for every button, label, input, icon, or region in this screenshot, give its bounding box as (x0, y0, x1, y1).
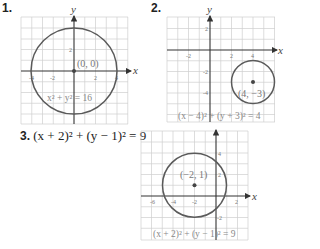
graph-3-tick: -2 (192, 199, 197, 205)
graph-2-grid (167, 17, 275, 122)
graph-3-tick: 2 (218, 172, 221, 178)
graph-3-center-label: (−2, 1) (180, 169, 207, 181)
graph-2-y-label: y (206, 3, 212, 15)
graph-1-center-point (72, 69, 76, 73)
graph-3-tick: -6 (150, 199, 155, 205)
graph-2-center-label: (4, −3) (238, 88, 265, 100)
graph-1-y-label: y (70, 3, 76, 15)
graph-2-x-label: x (277, 44, 283, 56)
graph-2-tick: 2 (205, 26, 208, 32)
graph-3: x -6 -4 -2 2 4 2 -2 (−2, 1) (x + 2)² + (… (141, 130, 257, 240)
graph-3-equation-label: (x + 2)² + (y − 1)² = 9 (153, 229, 236, 240)
graph-1: x y -4 -2 2 4 2 (0, 0) x² + y² = 16 (21, 3, 138, 124)
graph-2: x y -2 2 4 2 -2 -4 (4, −3) (x − 4)² + (y… (167, 3, 283, 122)
graph-2-tick: -4 (203, 90, 208, 96)
graph-1-tick: 2 (94, 75, 97, 81)
graph-3-tick: -2 (217, 215, 222, 221)
graph-3-center-point (193, 183, 197, 187)
graph-1-tick: -2 (50, 75, 55, 81)
graph-3-x-label: x (251, 190, 257, 202)
graph-3-tick: 2 (235, 199, 238, 205)
graph-2-tick: -2 (186, 53, 191, 59)
graph-2-equation-label: (x − 4)² + (y + 3)² = 4 (178, 111, 261, 122)
graph-2-tick: 4 (251, 53, 254, 59)
graph-2-tick: 2 (230, 53, 233, 59)
graph-1-equation-label: x² + y² = 16 (47, 93, 92, 103)
graph-2-center-point (251, 80, 255, 84)
graph-1-center-label: (0, 0) (77, 58, 99, 70)
graph-2-tick: -2 (203, 69, 208, 75)
graph-3-tick: 4 (218, 151, 221, 157)
graph-1-tick: 2 (69, 47, 72, 53)
graph-3-tick: -4 (171, 199, 176, 205)
graph-1-x-label: x (132, 64, 138, 76)
